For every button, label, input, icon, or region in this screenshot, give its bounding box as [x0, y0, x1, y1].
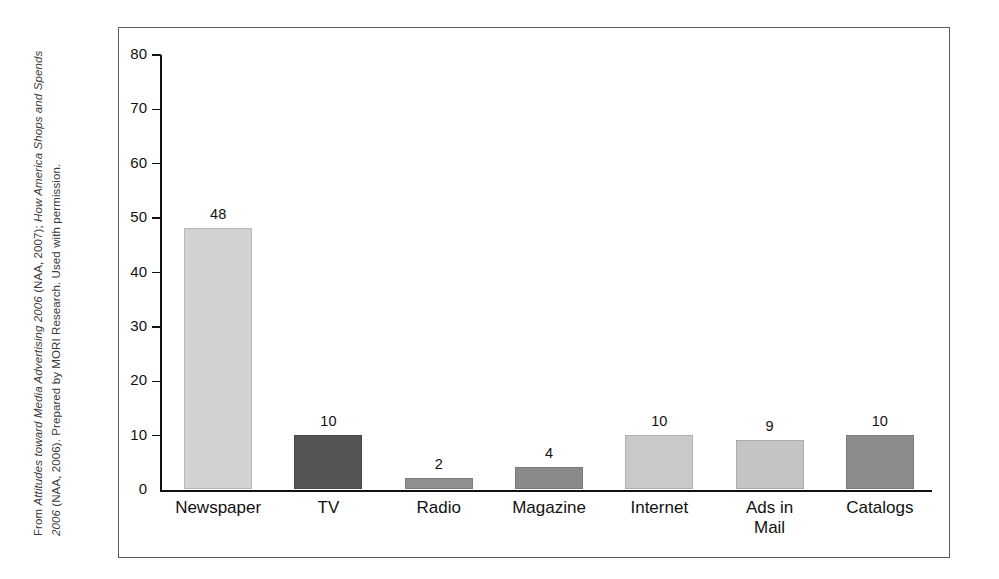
y-axis-tick [152, 163, 161, 164]
y-axis-label: 50 [119, 208, 147, 225]
y-axis-label: 0 [119, 480, 147, 497]
bar-value-label: 10 [625, 413, 693, 429]
y-axis-tick [152, 109, 161, 110]
bar-rect[interactable] [515, 467, 583, 489]
x-axis-category-label: Internet [603, 498, 715, 518]
bar-value-label: 9 [736, 418, 804, 434]
bar-rect[interactable] [625, 435, 693, 489]
y-axis-label: 30 [119, 317, 147, 334]
bar-group[interactable]: 2Radio [405, 478, 473, 489]
y-axis-tick [152, 381, 161, 382]
caption-segment: (NAA, 2007); [32, 222, 44, 296]
bar-rect[interactable] [405, 478, 473, 489]
bar-rect[interactable] [184, 228, 252, 489]
source-caption-text: From Attitudes toward Media Advertising … [30, 26, 65, 536]
caption-segment: From [32, 505, 44, 536]
y-axis-label: 70 [119, 99, 147, 116]
bar-rect[interactable] [294, 435, 362, 489]
y-axis-tick [152, 54, 161, 55]
y-axis-tick [152, 272, 161, 273]
bar-group[interactable]: 4Magazine [515, 467, 583, 489]
y-axis-label: 20 [119, 371, 147, 388]
source-caption: From Attitudes toward Media Advertising … [0, 0, 110, 579]
bar-group[interactable]: 10Internet [625, 435, 693, 489]
caption-segment: (NAA, 2006). Prepared by MORI Research. … [50, 164, 62, 510]
bar-value-label: 10 [294, 413, 362, 429]
y-axis-tick [152, 435, 161, 436]
y-axis-label: 80 [119, 45, 147, 62]
bar-group[interactable]: 9Ads in Mail [736, 440, 804, 489]
chart-frame: 01020304050607080 48Newspaper10TV2Radio4… [118, 27, 950, 558]
x-axis-category-label: Radio [383, 498, 495, 518]
y-axis-tick [152, 217, 161, 218]
y-axis-label: 60 [119, 154, 147, 171]
x-axis-category-label: Ads in Mail [714, 498, 826, 538]
bar-value-label: 4 [515, 445, 583, 461]
bar-value-label: 48 [184, 206, 252, 222]
bar-value-label: 2 [405, 456, 473, 472]
bar-rect[interactable] [736, 440, 804, 489]
y-axis-label: 40 [119, 263, 147, 280]
bar-chart-plot: 01020304050607080 48Newspaper10TV2Radio4… [119, 28, 949, 557]
x-axis-category-label: Catalogs [824, 498, 936, 518]
bar-group[interactable]: 10Catalogs [846, 435, 914, 489]
caption-segment: Attitudes toward Media Advertising 2006 [32, 296, 44, 505]
x-axis-category-label: Newspaper [162, 498, 274, 518]
bar-group[interactable]: 48Newspaper [184, 228, 252, 489]
bar-rect[interactable] [846, 435, 914, 489]
y-axis-tick [152, 326, 161, 327]
x-axis-category-label: TV [272, 498, 384, 518]
bar-value-label: 10 [846, 413, 914, 429]
y-axis-label: 10 [119, 426, 147, 443]
x-axis-line [160, 490, 932, 492]
bar-group[interactable]: 10TV [294, 435, 362, 489]
x-axis-category-label: Magazine [493, 498, 605, 518]
